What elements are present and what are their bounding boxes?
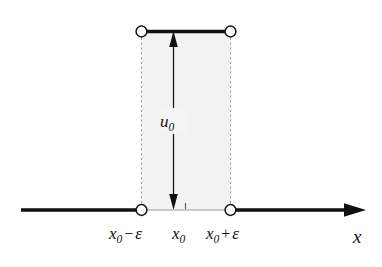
tick-right-epsilon: ε	[232, 224, 239, 243]
figure-container: u0 x0−ε x0 x0+ε x	[0, 0, 382, 267]
x-axis-arrowhead	[344, 203, 366, 217]
marker-axis-right-open-circle	[225, 205, 236, 216]
height-label-var: u	[160, 112, 169, 131]
tick-left-operator: −	[124, 225, 133, 242]
tick-label-left: x0−ε	[108, 224, 142, 245]
marker-axis-left-open-circle	[136, 205, 147, 216]
height-label-sub: 0	[169, 121, 175, 133]
box-function-figure: u0 x0−ε x0 x0+ε x	[0, 0, 382, 267]
marker-top-left-open-circle	[136, 26, 147, 37]
tick-left-sub: 0	[117, 233, 123, 245]
tick-right-sub: 0	[214, 233, 220, 245]
x-axis-label: x	[352, 226, 362, 247]
tick-right-operator: +	[221, 225, 230, 242]
marker-top-right-open-circle	[225, 26, 236, 37]
tick-label-center: x0	[171, 224, 186, 245]
tick-label-right: x0+ε	[205, 224, 239, 245]
tick-left-epsilon: ε	[135, 224, 142, 243]
tick-center-sub: 0	[180, 233, 186, 245]
